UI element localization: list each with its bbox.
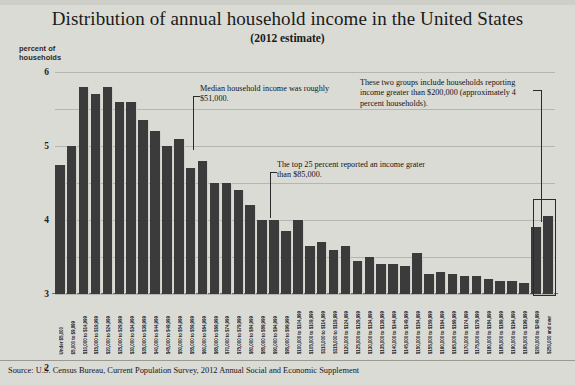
x-axis-label: $190,000 to $194,999 — [509, 311, 518, 354]
source-note: Source: U.S. Census Bureau, Current Popu… — [8, 366, 359, 375]
x-axis-label: $45,000 to $49,999 — [164, 316, 173, 354]
bar — [400, 266, 411, 294]
y-tick-label-5: 5 — [44, 141, 49, 151]
x-axis-label: $140,000 to $144,999 — [390, 311, 399, 354]
bar — [91, 94, 102, 294]
x-axis-label: $35,000 to $39,999 — [140, 316, 149, 354]
x-axis-label: $250,000 and over — [545, 316, 554, 354]
bar — [329, 250, 340, 294]
bar — [365, 257, 376, 294]
x-axis-label: $50,000 to $54,999 — [176, 316, 185, 354]
x-axis-label: $25,000 to $29,999 — [116, 316, 125, 354]
bar — [138, 120, 149, 294]
x-axis-labels: Under $5,000$5,000 to $9,999$10,000 to $… — [55, 296, 555, 354]
x-axis-label: $75,000 to $79,999 — [235, 316, 244, 354]
annotation-top25-leader-vertical — [270, 172, 271, 218]
x-axis-label: $155,000 to $159,999 — [426, 311, 435, 354]
highlight-bracket-last-two-bars — [533, 199, 556, 296]
x-axis-label: $15,000 to $19,999 — [92, 316, 101, 354]
bar — [222, 183, 233, 294]
bar — [293, 220, 304, 294]
x-axis-label: $165,000 to $169,999 — [450, 311, 459, 354]
x-axis-label: $175,000 to $179,999 — [473, 311, 482, 354]
bar — [388, 264, 399, 294]
x-axis-label: $130,000 to $134,999 — [366, 311, 375, 354]
bar — [460, 276, 471, 295]
y-tick-label-3: 3 — [44, 289, 49, 299]
bar — [115, 102, 126, 294]
x-axis-label: $95,000 to $99,999 — [283, 316, 292, 354]
bar — [472, 276, 483, 295]
bar — [484, 279, 495, 294]
annotation-top25: The top 25 percent reported an income gr… — [277, 160, 427, 181]
x-axis-label: $105,000 to $109,999 — [307, 311, 316, 354]
bar — [126, 102, 137, 294]
bar — [436, 272, 447, 294]
bar — [507, 281, 518, 294]
x-axis-label: $60,000 to $64,999 — [200, 316, 209, 354]
x-axis-label: $100,000 to $104,999 — [295, 311, 304, 354]
annotation-median: Median household income was roughly $51,… — [200, 84, 330, 105]
y-axis-caption-line2: households — [19, 53, 61, 62]
x-axis-label: Under $5,000 — [57, 327, 66, 354]
x-axis-label: $80,000 to $84,999 — [247, 316, 256, 354]
page-subtitle: (2012 estimate) — [0, 32, 575, 44]
gridline-0: 0 — [55, 294, 555, 295]
bar — [448, 274, 459, 294]
bar — [495, 281, 506, 294]
bar — [234, 190, 245, 294]
bar — [257, 220, 268, 294]
bar — [317, 242, 328, 294]
annotation-median-leader-vertical — [193, 96, 194, 150]
bar — [281, 231, 292, 294]
y-axis-caption: percent ofhouseholds — [19, 44, 61, 62]
bar — [519, 283, 530, 294]
x-axis-label: $85,000 to $89,999 — [259, 316, 268, 354]
x-axis-label: $185,000 to $189,999 — [497, 311, 506, 354]
bar — [79, 87, 90, 294]
bar — [55, 165, 66, 295]
bar — [424, 274, 435, 294]
x-axis-label: $30,000 to $34,999 — [128, 316, 137, 354]
bar — [376, 264, 387, 294]
bar — [412, 253, 423, 294]
x-axis-label: $150,000 to $154,999 — [414, 311, 423, 354]
x-axis-label: $200,000 to $249,999 — [533, 311, 542, 354]
x-axis-label: $125,000 to $129,999 — [354, 311, 363, 354]
annotation-top25-leader-horizontal — [270, 172, 277, 173]
bar — [305, 246, 316, 294]
bar — [103, 87, 114, 294]
bar — [210, 183, 221, 294]
x-axis-label: $160,000 to $164,999 — [438, 311, 447, 354]
annotation-median-leader-horizontal — [193, 96, 200, 97]
y-tick-label-6: 6 — [44, 67, 49, 77]
x-axis-label: $40,000 to $44,999 — [152, 316, 161, 354]
x-axis-label: $55,000 to $59,999 — [188, 316, 197, 354]
bar — [245, 205, 256, 294]
footer-divider — [0, 360, 575, 361]
x-axis-label: $135,000 to $139,999 — [378, 311, 387, 354]
bar — [341, 246, 352, 294]
x-axis-label: $5,000 to $9,999 — [69, 321, 78, 354]
page-title: Distribution of annual household income … — [0, 8, 575, 30]
bar — [150, 131, 161, 294]
x-axis-label: $170,000 to $174,999 — [462, 311, 471, 354]
x-axis-label: $180,000 to $184,999 — [485, 311, 494, 354]
y-axis-caption-line1: percent of — [19, 44, 55, 53]
x-axis-label: $145,000 to $149,999 — [402, 311, 411, 354]
x-axis-label: $90,000 to $94,999 — [271, 316, 280, 354]
chart-page: Distribution of annual household income … — [0, 0, 575, 385]
bar — [353, 261, 364, 294]
bar — [162, 146, 173, 294]
x-axis-label: $115,000 to $119,999 — [331, 311, 340, 354]
x-axis-label: $20,000 to $24,999 — [104, 316, 113, 354]
x-axis-label: $195,000 to $199,999 — [521, 311, 530, 354]
x-axis-label: $65,000 to $69,999 — [212, 316, 221, 354]
bar — [186, 168, 197, 294]
bar — [67, 146, 78, 294]
x-axis-label: $70,000 to $74,999 — [223, 316, 232, 354]
x-axis-label: $110,000 to $114,999 — [319, 311, 328, 354]
bar — [174, 139, 185, 294]
x-axis-label: $120,000 to $124,999 — [342, 311, 351, 354]
annotation-two-groups: These two groups include households repo… — [360, 78, 540, 109]
